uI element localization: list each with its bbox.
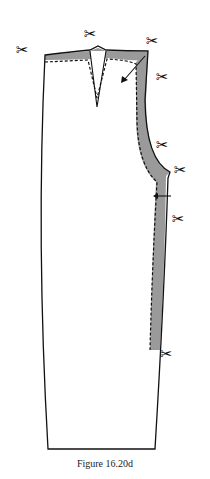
scissors-icon: ✂ <box>174 163 187 178</box>
scissors-icon: ✂ <box>84 27 97 42</box>
scissors-icon: ✂ <box>156 70 169 85</box>
scissors-icon: ✂ <box>160 347 173 362</box>
pattern-diagram <box>0 0 210 479</box>
scissors-icon: ✂ <box>16 43 29 58</box>
scissors-icon: ✂ <box>156 138 169 153</box>
figure-caption: Figure 16.20d <box>0 458 210 469</box>
pattern-outline <box>41 46 170 449</box>
side-facing-shaded <box>136 52 170 350</box>
scissors-icon: ✂ <box>146 34 159 49</box>
scissors-icon: ✂ <box>172 212 185 227</box>
